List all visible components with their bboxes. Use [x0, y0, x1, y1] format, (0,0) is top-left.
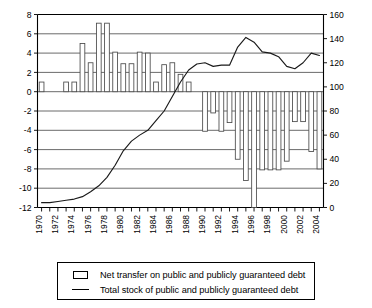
- svg-text:20: 20: [330, 178, 340, 188]
- svg-text:1978: 1978: [99, 215, 109, 234]
- chart-legend: Net transfer on public and publicly guar…: [57, 262, 315, 300]
- svg-text:2004: 2004: [311, 215, 321, 234]
- svg-text:-6: -6: [24, 145, 32, 155]
- svg-text:60: 60: [330, 130, 340, 140]
- x-axis-labels: 1970197219741976197819801982198419861988…: [34, 215, 322, 234]
- svg-text:0: 0: [330, 203, 335, 213]
- right-axis-labels: 160140120100806040200: [330, 10, 345, 213]
- svg-text:1998: 1998: [262, 215, 272, 234]
- svg-text:1976: 1976: [83, 215, 93, 234]
- svg-text:4: 4: [27, 48, 32, 58]
- svg-text:1970: 1970: [34, 215, 44, 234]
- svg-text:1982: 1982: [132, 215, 142, 234]
- svg-text:-2: -2: [24, 106, 32, 116]
- figure-container: 86420-2-4-6-8-10-12 16014012010080604020…: [0, 0, 372, 308]
- svg-text:80: 80: [330, 106, 340, 116]
- svg-text:1996: 1996: [246, 215, 256, 234]
- chart-plot-area: 86420-2-4-6-8-10-12 16014012010080604020…: [0, 0, 372, 262]
- svg-text:2000: 2000: [279, 215, 289, 234]
- svg-text:1994: 1994: [230, 215, 240, 234]
- legend-label-total-stock: Total stock of public and publicly guara…: [100, 285, 298, 295]
- legend-item-net-transfer: Net transfer on public and publicly guar…: [58, 267, 314, 282]
- bars-group: [39, 23, 322, 207]
- svg-text:-12: -12: [19, 203, 32, 213]
- svg-text:8: 8: [27, 10, 32, 20]
- svg-text:1972: 1972: [50, 215, 60, 234]
- svg-text:1986: 1986: [164, 215, 174, 234]
- svg-text:140: 140: [330, 34, 345, 44]
- svg-text:1974: 1974: [66, 215, 76, 234]
- svg-text:100: 100: [330, 82, 345, 92]
- svg-text:1990: 1990: [197, 215, 207, 234]
- legend-item-total-stock: Total stock of public and publicly guara…: [58, 282, 314, 297]
- svg-text:1992: 1992: [213, 215, 223, 234]
- svg-text:2002: 2002: [295, 215, 305, 234]
- legend-label-net-transfer: Net transfer on public and publicly guar…: [100, 270, 305, 280]
- svg-text:6: 6: [27, 29, 32, 39]
- svg-text:2: 2: [27, 68, 32, 78]
- chart-svg: 86420-2-4-6-8-10-12 16014012010080604020…: [0, 0, 372, 262]
- svg-text:-4: -4: [24, 125, 32, 135]
- svg-text:40: 40: [330, 154, 340, 164]
- svg-text:0: 0: [27, 87, 32, 97]
- svg-text:120: 120: [330, 58, 345, 68]
- left-axis-labels: 86420-2-4-6-8-10-12: [19, 10, 32, 213]
- svg-text:1980: 1980: [115, 215, 125, 234]
- svg-text:1984: 1984: [148, 215, 158, 234]
- svg-text:1988: 1988: [181, 215, 191, 234]
- svg-text:160: 160: [330, 10, 345, 20]
- axes-group: [34, 15, 327, 212]
- line-dash-icon: [69, 289, 91, 290]
- svg-text:-8: -8: [24, 164, 32, 174]
- bar-swatch-icon: [69, 271, 91, 279]
- svg-text:-10: -10: [19, 183, 32, 193]
